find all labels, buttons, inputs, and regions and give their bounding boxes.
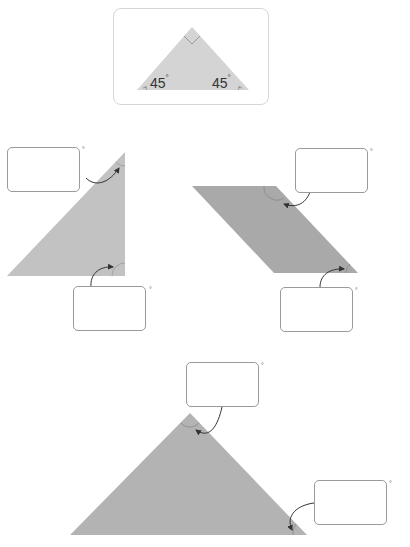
parallelogram [192, 186, 358, 287]
diagram-canvas [0, 0, 410, 547]
answer-box-right-triangle-top[interactable] [7, 147, 80, 192]
degree-symbol: ° [149, 286, 152, 293]
degree-symbol: ° [370, 148, 373, 155]
example-right-angle-label: 45° [212, 76, 231, 90]
degree-symbol: ° [355, 287, 358, 294]
answer-box-isosceles-apex[interactable] [186, 362, 259, 407]
example-left-angle-label: 45° [150, 76, 169, 90]
answer-box-isosceles-bottom-right[interactable] [314, 480, 387, 525]
degree-symbol: ° [82, 146, 85, 153]
degree-symbol: ° [261, 362, 264, 369]
degree-symbol: ° [389, 480, 392, 487]
answer-box-right-triangle-bottom[interactable] [73, 286, 146, 331]
answer-box-parallelogram-top[interactable] [295, 148, 368, 193]
answer-box-parallelogram-bottom[interactable] [280, 287, 353, 332]
isosceles-triangle [70, 407, 314, 535]
